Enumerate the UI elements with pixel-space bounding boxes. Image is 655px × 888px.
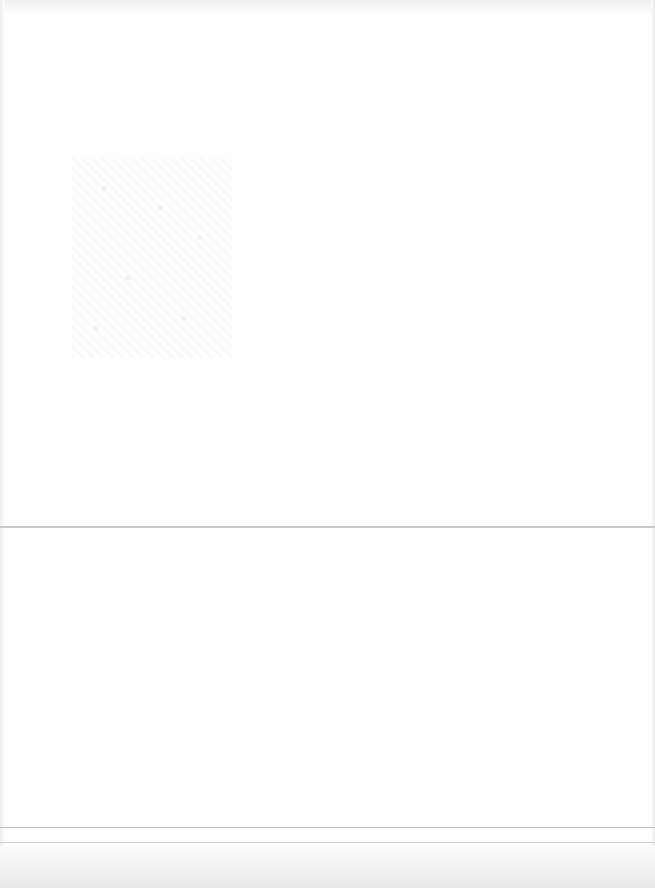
- middle-divider: [0, 526, 655, 528]
- bottom-divider-upper: [0, 827, 655, 828]
- faint-bleedthrough-image: [72, 158, 232, 358]
- left-scan-edge: [0, 0, 5, 888]
- right-scan-edge: [651, 0, 655, 888]
- bottom-divider-lower: [0, 842, 655, 843]
- blank-page: [0, 0, 655, 888]
- bottom-scan-edge: [0, 846, 655, 888]
- top-scan-edge: [0, 0, 655, 14]
